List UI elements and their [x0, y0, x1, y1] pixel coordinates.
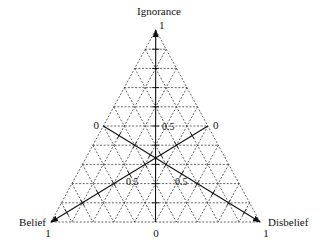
vertex-label-belief: Belief [19, 216, 46, 228]
vertex-value-ignorance: 1 [159, 19, 165, 31]
belief-mid-label: 0.5 [126, 176, 139, 187]
disbelief-mid-label: 0.5 [175, 176, 188, 187]
vertex-label-ignorance: Ignorance [137, 5, 181, 17]
ignorance-mid-label: 0.5 [162, 121, 175, 132]
vertex-value-belief: 1 [45, 227, 51, 239]
opinion-triangle-diagram: Ignorance 1 Belief 1 Disbelief 1 0 0.5 0… [0, 0, 326, 249]
disbelief-origin-label: 0 [94, 119, 100, 131]
belief-origin-label: 0 [213, 119, 219, 131]
vertex-value-disbelief: 1 [263, 227, 269, 239]
vertex-label-disbelief: Disbelief [268, 216, 309, 228]
ignorance-origin-label: 0 [153, 227, 159, 239]
